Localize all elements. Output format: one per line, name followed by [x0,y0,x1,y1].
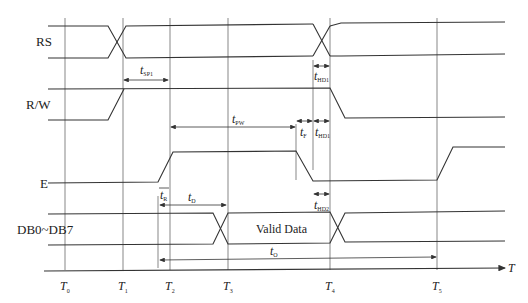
valid-data-label: Valid Data [256,222,308,236]
tick-t1: T1 [118,279,128,294]
signal-label-db: DB0~DB7 [17,222,74,237]
tsp1-annotation: tSP1 [124,63,168,80]
time-axis [44,268,505,271]
tpw-annotation: tPW [171,112,295,127]
rs-waveform [48,22,505,58]
svg-text:tR: tR [160,188,167,202]
tr-annotation: tR [159,188,169,202]
timing-diagram: T T0 T1 T2 T3 T4 T5 RS R/W E DB0~DB7 Val… [0,0,528,303]
thd1-rs-annotation: tHD1 [314,66,329,83]
tick-t4: T4 [325,279,335,294]
signal-label-rw: R/W [26,97,51,112]
svg-text:tHD1: tHD1 [315,125,330,139]
signal-label-rs: RS [36,34,52,49]
rw-waveform [48,88,505,120]
svg-text:tSP1: tSP1 [140,63,153,77]
tick-t2: T2 [165,279,175,294]
tick-t3: T3 [223,279,233,294]
signal-label-e: E [40,176,48,191]
svg-text:tD: tD [188,190,196,204]
tick-t0: T0 [60,279,70,294]
thd2-annotation: tHD2 [314,194,329,212]
time-axis-label: T [508,261,516,275]
svg-text:tPW: tPW [232,112,245,126]
e-waveform [48,147,505,183]
thd1-annotation: tHD1 [314,121,330,139]
tick-t5: T5 [432,279,442,294]
svg-text:tHD1: tHD1 [314,69,329,83]
svg-text:tHD2: tHD2 [314,198,329,212]
tf-annotation: tF [297,121,312,139]
svg-text:tF: tF [300,125,307,139]
to-annotation: tO [160,244,436,260]
svg-text:tO: tO [270,244,278,258]
time-tick-labels: T0 T1 T2 T3 T4 T5 [60,279,442,294]
